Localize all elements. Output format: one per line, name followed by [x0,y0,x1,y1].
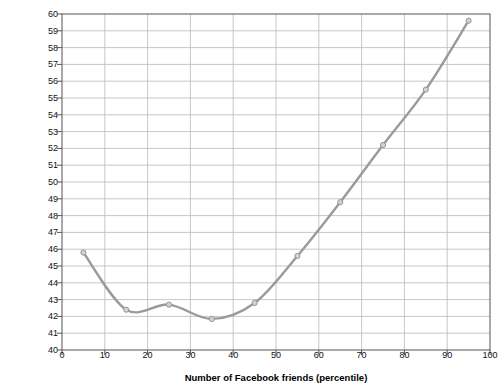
plot-area [0,0,501,390]
x-tick-label: 50 [256,350,296,360]
data-point [423,87,428,92]
x-tick-label: 90 [427,350,467,360]
data-point [166,302,171,307]
x-tick-label: 60 [299,350,339,360]
x-tick-label: 10 [85,350,125,360]
data-point [380,142,385,147]
x-axis-title: Number of Facebook friends (percentile) [62,372,490,383]
gridlines [62,14,490,350]
data-point [252,300,257,305]
data-point [295,253,300,258]
chart-figure: © 2016 Cengage Learning® Extroversion (p… [0,0,501,390]
data-point [338,200,343,205]
data-point [81,250,86,255]
x-tick-label: 70 [342,350,382,360]
x-tick-label: 100 [470,350,501,360]
x-tick-label: 30 [170,350,210,360]
axis-tick-marks [57,14,490,355]
x-tick-label: 40 [213,350,253,360]
data-point [124,307,129,312]
x-tick-label: 80 [384,350,424,360]
x-tick-label: 0 [42,350,82,360]
data-point [209,316,214,321]
data-point [466,18,471,23]
x-tick-label: 20 [128,350,168,360]
x-axis-tick-labels: 0102030405060708090100 [0,350,501,366]
